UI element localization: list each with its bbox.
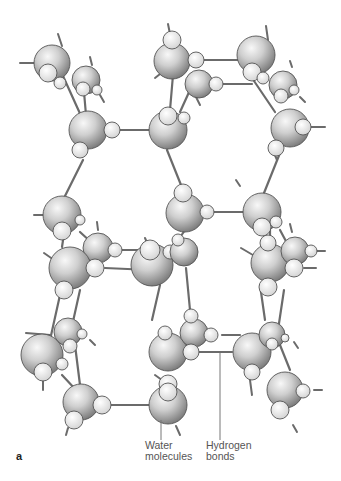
- water-label-line2: molecules: [145, 451, 192, 462]
- water-molecules-label: Water molecules: [145, 440, 192, 462]
- hydrogen-bonds-label: Hydrogen bonds: [206, 440, 252, 462]
- hbond-label-line2: bonds: [206, 451, 252, 462]
- water-molecules: [21, 31, 317, 429]
- ice-lattice-diagram: [0, 0, 341, 481]
- panel-letter: a: [16, 450, 22, 462]
